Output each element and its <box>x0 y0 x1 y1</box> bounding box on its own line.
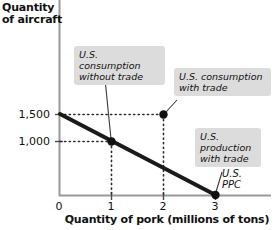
callout-consumption-with-trade: U.S. consumption with trade <box>174 68 271 96</box>
x-tick-label-3: 3 <box>207 200 223 213</box>
ppc-chart-figure: Quantity of aircraft Quantity of pork (m… <box>0 0 274 230</box>
x-tick-label-2: 2 <box>155 200 171 213</box>
callout-consumption-without-trade: U.S. consumption without trade <box>74 46 165 85</box>
x-tick-label-1: 1 <box>103 200 119 213</box>
point-consumption-without-trade <box>107 137 115 145</box>
y-tick-label-1500: 1,500 <box>10 108 50 121</box>
us-ppc-line <box>60 114 216 195</box>
leader-line-consumption-with-trade <box>166 100 177 112</box>
point-production-with-trade <box>211 191 219 199</box>
leader-line-consumption-without-trade <box>105 79 111 139</box>
callout-production-with-trade: U.S. production with trade <box>195 128 261 167</box>
y-axis-title: Quantity of aircraft <box>2 2 62 26</box>
x-axis-title: Quantity of pork (millions of tons) <box>60 214 274 226</box>
label-us-ppc: U.S. PPC <box>222 168 242 190</box>
y-tick-label-1000: 1,000 <box>10 135 50 148</box>
x-tick-label-0: 0 <box>51 200 67 213</box>
point-consumption-with-trade <box>159 110 167 118</box>
